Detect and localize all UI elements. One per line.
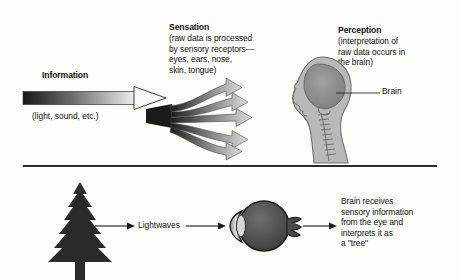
panel-divider [23, 165, 437, 167]
figure-canvas: Information (light, sound, etc.) Sensati… [0, 0, 460, 280]
sensory-fan-arrows [146, 74, 296, 160]
result-line: sensory information [341, 207, 413, 218]
brain-callout-line [336, 91, 380, 95]
sensation-body: (raw data is processed by sensory recept… [169, 33, 254, 75]
information-heading: Information [42, 70, 88, 81]
sensation-body-line: (raw data is processed [169, 33, 254, 44]
lightwaves-label: Lightwaves [138, 220, 180, 231]
sensation-heading: Sensation [169, 22, 209, 33]
result-line: from the eye and [341, 217, 413, 228]
arrow-lightwaves-to-eye [186, 221, 226, 231]
perception-result-text: Brain receives sensory information from … [341, 196, 413, 249]
human-eye [226, 197, 302, 257]
result-line: Brain receives [341, 196, 413, 207]
sensation-body-line: eyes, ears, nose, [169, 54, 254, 65]
head-brain-illustration [288, 55, 360, 163]
pine-tree [40, 182, 120, 280]
information-subtext: (light, sound, etc.) [32, 111, 99, 122]
arrow-eye-to-brain [303, 221, 337, 231]
result-line: a "tree" [341, 238, 413, 249]
brain-callout-label: Brain [382, 86, 402, 97]
arrow-tree-to-lightwaves [95, 221, 135, 231]
result-line: interprets it as [341, 228, 413, 239]
perception-body-line: (interpretation of [338, 36, 405, 47]
perception-heading: Perception [338, 25, 381, 36]
sensation-body-line: by sensory receptors— [169, 44, 254, 55]
